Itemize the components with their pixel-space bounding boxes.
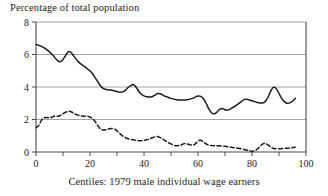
y-tick-marks <box>32 22 36 152</box>
x-tick-label: 100 <box>299 158 314 169</box>
data-series <box>36 44 295 151</box>
x-tick-label: 20 <box>85 158 95 169</box>
x-tick-label: 80 <box>247 158 257 169</box>
y-tick-label: 8 <box>24 17 29 28</box>
y-tick-label: 4 <box>24 82 29 93</box>
line-chart-plot: 020406080100 02468 <box>0 0 328 196</box>
y-tick-labels: 02468 <box>24 17 29 158</box>
y-tick-label: 6 <box>24 49 29 60</box>
x-tick-labels: 020406080100 <box>34 158 314 169</box>
x-tick-marks <box>36 152 306 156</box>
x-tick-label: 60 <box>193 158 203 169</box>
y-tick-label: 2 <box>24 114 29 125</box>
chart-figure: Percentage of total population 020406080… <box>0 0 328 196</box>
x-tick-label: 0 <box>34 158 39 169</box>
y-tick-label: 0 <box>24 147 29 158</box>
dashed-series <box>36 111 295 151</box>
x-tick-label: 40 <box>139 158 149 169</box>
gridlines <box>36 22 306 120</box>
x-axis-label: Centiles: 1979 male individual wage earn… <box>0 176 328 187</box>
